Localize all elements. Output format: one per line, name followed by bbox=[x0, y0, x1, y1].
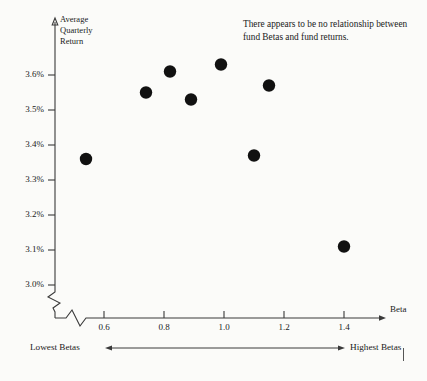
y-tick-label-3.4: 3.4% bbox=[10, 139, 44, 150]
y-axis-label: Average Quarterly Return bbox=[60, 14, 120, 47]
x-axis-label: Beta bbox=[390, 304, 407, 315]
range-label-lowest: Lowest Betas bbox=[30, 342, 80, 353]
x-tick-label-1.2: 1.2 bbox=[269, 322, 299, 333]
data-point bbox=[338, 240, 350, 252]
y-tick-label-3.0: 3.0% bbox=[10, 279, 44, 290]
beta-range-arrow bbox=[105, 346, 345, 351]
page-margin-mark bbox=[403, 348, 404, 361]
data-point bbox=[185, 93, 197, 105]
y-axis-label-line-2: Quarterly bbox=[60, 25, 120, 36]
y-tick-label-3.2: 3.2% bbox=[10, 209, 44, 220]
data-point bbox=[80, 153, 92, 165]
y-tick-label-3.1: 3.1% bbox=[10, 244, 44, 255]
data-point bbox=[164, 65, 176, 77]
x-tick-label-1.4: 1.4 bbox=[329, 322, 359, 333]
range-label-highest: Highest Betas bbox=[350, 342, 401, 353]
data-point bbox=[140, 86, 152, 98]
y-tick-label-3.6: 3.6% bbox=[10, 69, 44, 80]
y-tick-label-3.3: 3.3% bbox=[10, 174, 44, 185]
chart-annotation: There appears to be no relationship betw… bbox=[243, 18, 423, 43]
x-tick-label-0.6: 0.6 bbox=[89, 322, 119, 333]
x-tick-label-0.8: 0.8 bbox=[149, 322, 179, 333]
data-point bbox=[248, 149, 260, 161]
data-point-group bbox=[80, 58, 350, 252]
y-axis-break-symbol bbox=[48, 287, 60, 318]
data-point bbox=[215, 58, 227, 70]
data-point bbox=[263, 79, 275, 91]
x-tick-label-1.0: 1.0 bbox=[209, 322, 239, 333]
x-axis-arrowhead bbox=[379, 315, 386, 321]
y-tick-label-3.5: 3.5% bbox=[10, 104, 44, 115]
y-axis-label-line-3: Return bbox=[60, 36, 120, 47]
scatter-chart-figure: Average Quarterly Return 3.6% 3.5% 3.4% … bbox=[0, 0, 427, 381]
y-axis-label-line-1: Average bbox=[60, 14, 120, 25]
